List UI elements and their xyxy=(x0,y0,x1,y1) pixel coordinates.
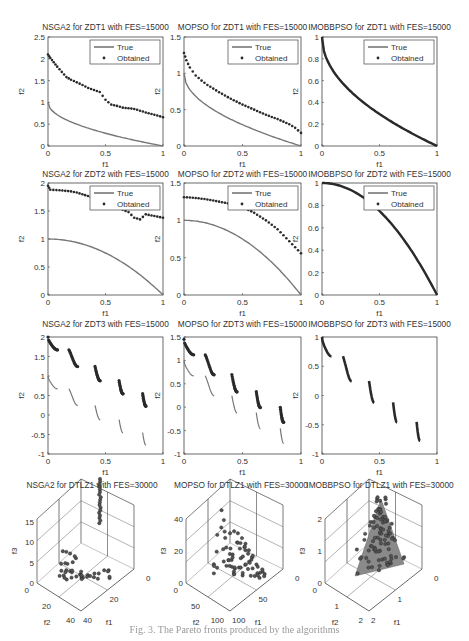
x-tick-label: 0 xyxy=(320,457,325,466)
obtained-point xyxy=(218,91,221,94)
obtained-point xyxy=(390,522,393,525)
subplot-0: NSGA2 for ZDT1 with FES=1500000.5100.511… xyxy=(17,22,169,169)
obtained-point xyxy=(224,201,227,204)
obtained-point xyxy=(113,104,116,107)
subplot-4: MOPSO for ZDT2 with FES=1500000.5100.511… xyxy=(153,169,308,318)
legend-obtained-swatch xyxy=(377,203,380,206)
obtained-point xyxy=(389,554,392,557)
obtained-point xyxy=(130,107,133,110)
z-axis-label: f3 xyxy=(159,547,168,554)
obtained-point xyxy=(232,530,235,533)
x-axis-label: f1 xyxy=(376,160,383,169)
obtained-point xyxy=(215,550,218,553)
obtained-point xyxy=(238,547,241,550)
legend-true-label: True xyxy=(117,43,134,52)
true-front-segment xyxy=(232,396,237,413)
legend-true-label: True xyxy=(391,43,408,52)
f1-tick-label: 0 xyxy=(295,574,300,583)
x-tick-label: 1 xyxy=(299,298,304,307)
y-tick-label: 0.8 xyxy=(308,201,320,210)
legend: TrueObtained xyxy=(364,186,434,210)
obtained-point xyxy=(244,542,247,545)
y-tick-label: 2.5 xyxy=(34,33,46,42)
obtained-point xyxy=(200,197,203,200)
obtained-point xyxy=(268,115,271,118)
obtained-point xyxy=(206,84,209,87)
obtained-point xyxy=(98,522,101,525)
legend: TrueObtained xyxy=(228,40,298,64)
obtained-point xyxy=(216,533,219,536)
true-front-segment xyxy=(393,402,397,422)
x-tick-label: 0 xyxy=(46,457,51,466)
obtained-point xyxy=(244,105,247,108)
obtained-point xyxy=(256,213,259,216)
obtained-point xyxy=(276,228,279,231)
legend-obtained-swatch xyxy=(241,57,244,60)
obtained-point xyxy=(116,105,119,108)
y-tick-label: 1 xyxy=(41,372,46,381)
obtained-point xyxy=(297,129,300,132)
f2-tick-label: 0 xyxy=(313,586,318,595)
obtained-point xyxy=(70,78,73,81)
obtained-point xyxy=(64,561,67,564)
obtained-point xyxy=(235,100,238,103)
z-tick-label: 15 xyxy=(25,518,34,527)
obtained-point xyxy=(90,88,93,91)
obtained-point xyxy=(236,532,239,535)
obtained-point xyxy=(372,514,375,517)
z-tick-label: 20 xyxy=(174,547,183,556)
obtained-point xyxy=(142,216,145,219)
subplot-title: IMOBBPSO for ZDT1 with FES=15000 xyxy=(308,22,451,32)
true-front-segment xyxy=(69,389,78,406)
obtained-point xyxy=(212,572,215,575)
obtained-point xyxy=(228,564,231,567)
obtained-point xyxy=(379,542,382,545)
obtained-point xyxy=(144,405,147,408)
obtained-point xyxy=(203,81,206,84)
f2-tick-label: 0 xyxy=(25,586,30,595)
y-tick-label: -0.5 xyxy=(167,427,181,436)
obtained-point xyxy=(355,548,358,551)
obtained-point xyxy=(191,196,194,199)
obtained-point xyxy=(273,226,276,229)
obtained-point xyxy=(256,574,259,577)
f1-tick-label: 50 xyxy=(259,595,268,604)
obtained-point xyxy=(367,566,370,569)
obtained-point xyxy=(387,547,390,550)
x-tick-label: 0.5 xyxy=(237,457,249,466)
obtained-point xyxy=(383,538,386,541)
subplot-title: NSGA2 for ZDT2 with FES=15000 xyxy=(42,169,169,179)
subplot-2: IMOBBPSO for ZDT1 with FES=1500000.5100.… xyxy=(291,22,451,169)
obtained-point xyxy=(371,539,374,542)
obtained-point xyxy=(70,576,73,579)
x-tick-label: 1 xyxy=(299,457,304,466)
true-front-segment xyxy=(369,381,374,403)
obtained-point xyxy=(250,210,253,213)
y-tick-label: 0.5 xyxy=(34,263,46,272)
legend-obtained-label: Obtained xyxy=(117,54,149,63)
y-tick-label: 2 xyxy=(41,333,46,342)
obtained-point xyxy=(209,85,212,88)
obtained-point xyxy=(84,194,87,197)
obtained-point xyxy=(378,499,381,502)
obtained-point xyxy=(253,108,256,111)
obtained-point xyxy=(73,555,76,558)
obtained-point xyxy=(227,96,230,99)
obtained-point xyxy=(378,564,381,567)
obtained-point xyxy=(93,89,96,92)
obtained-point xyxy=(253,212,256,215)
y-axis-label: f2 xyxy=(17,392,26,399)
obtained-point xyxy=(106,570,109,573)
obtained-point xyxy=(81,193,84,196)
obtained-point xyxy=(139,218,142,221)
x-axis-label: f1 xyxy=(239,309,246,318)
obtained-point xyxy=(55,189,58,192)
obtained-point xyxy=(150,113,153,116)
y-axis-label: f2 xyxy=(153,392,162,399)
obtained-point xyxy=(288,123,291,126)
obtained-point xyxy=(98,91,101,94)
obtained-point xyxy=(54,63,57,66)
obtained-point xyxy=(52,61,55,64)
obtained-point xyxy=(232,99,235,102)
obtained-point xyxy=(75,575,78,578)
